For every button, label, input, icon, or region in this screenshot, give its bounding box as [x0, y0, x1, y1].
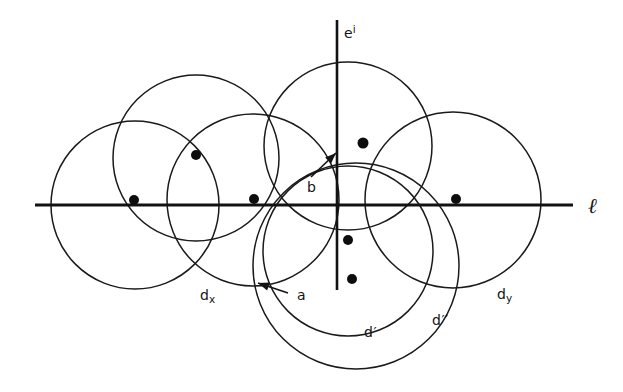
dot-5: [451, 194, 461, 204]
dot-7: [347, 274, 357, 284]
circle-label-dx-subscript: x: [209, 293, 215, 305]
axis-label-e-superscript-i: ei: [344, 24, 356, 40]
circle-label-dx: dx: [200, 288, 215, 305]
figure-container: ei ℓ dx dy d′ d′′ a b: [0, 0, 623, 392]
circle-label-dy-subscript: y: [506, 292, 512, 304]
leaders-group: [258, 153, 336, 293]
circle-lower-dprime: [263, 166, 433, 336]
axes-group: [35, 20, 573, 290]
circle-label-dy: dy: [497, 287, 512, 304]
point-label-a: a: [297, 288, 306, 302]
dot-3: [249, 194, 259, 204]
dot-2: [191, 150, 201, 160]
diagram-canvas: [0, 0, 623, 392]
axis-label-ell: ℓ: [588, 196, 597, 217]
dot-1: [129, 195, 139, 205]
axis-label-e-superscript: i: [353, 23, 356, 35]
circle-label-dy-base: d: [497, 286, 506, 302]
circle-label-d-prime: d′: [364, 325, 377, 339]
dot-4: [358, 138, 369, 149]
dot-6: [343, 235, 353, 245]
circle-lower-ddprime: [253, 163, 459, 369]
point-label-b: b: [307, 180, 316, 194]
circle-label-d-double-prime: d′′: [432, 313, 449, 327]
circles-group: [51, 62, 541, 369]
axis-label-e-base: e: [344, 25, 353, 41]
circle-label-dx-base: d: [200, 287, 209, 303]
